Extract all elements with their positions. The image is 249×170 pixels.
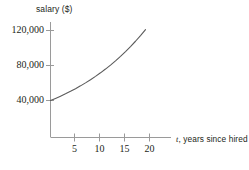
- x-axis-title-rest: , years since hired: [178, 134, 247, 144]
- y-tick-label-40000: 40,000: [0, 94, 44, 105]
- x-tick-label-15: 15: [115, 143, 135, 154]
- salary-curve: [51, 30, 146, 101]
- y-tick-label-120000: 120,000: [0, 24, 44, 35]
- chart-figure: salary ($) t, years since hired 120,000 …: [0, 0, 249, 170]
- y-axis-title: salary ($): [36, 4, 72, 14]
- y-tick-label-80000: 80,000: [0, 59, 44, 70]
- x-tick-label-10: 10: [90, 143, 110, 154]
- x-tick-label-20: 20: [140, 143, 160, 154]
- x-axis-title: t, years since hired: [176, 134, 248, 144]
- x-tick-label-5: 5: [65, 143, 85, 154]
